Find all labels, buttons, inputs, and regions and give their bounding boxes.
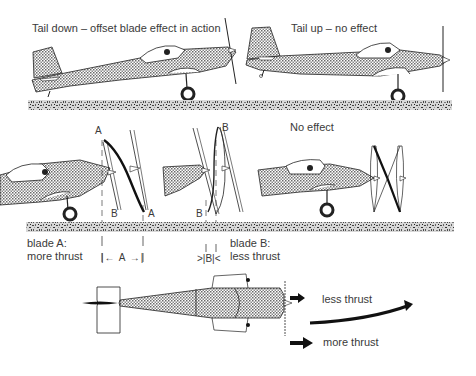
blade-label-b-center: B [196,207,203,220]
yaw-arrow-head-icon [404,300,413,311]
label-less-thrust: less thrust [322,293,372,306]
blade-label-a-bottom: A [148,207,155,220]
label-more-thrust: more thrust [323,336,379,349]
caption-blade-b-line2: less thrust [230,250,280,263]
caption-tail-up: Tail up – no effect [291,22,377,35]
blade-label-b-left: B [111,207,118,220]
caption-no-effect: No effect [290,121,334,134]
blade-b-diagram [163,127,243,230]
no-effect-diagram [258,146,406,216]
blade-a-diagram [0,130,148,230]
blade-label-b-top: B [222,121,229,134]
caption-tail-down: Tail down – offset blade effect in actio… [32,22,221,35]
caption-blade-a-line2: more thrust [27,250,83,263]
measure-b: >|B|< [197,252,221,265]
ground-strip-top [28,100,452,110]
less-thrust-arrow-icon [290,293,305,303]
caption-blade-b-line1: blade B: [230,237,270,250]
top-view-aircraft [82,274,292,336]
ground-strip-middle [26,222,454,232]
measure-a: |← A →| [101,251,144,264]
tail-up-aircraft [246,26,450,102]
blade-label-a-top: A [95,124,102,137]
diagram-canvas [0,0,476,376]
more-thrust-arrow-icon [290,337,313,349]
yaw-arrow-icon [310,305,410,323]
caption-blade-a-line1: blade A: [27,237,67,250]
